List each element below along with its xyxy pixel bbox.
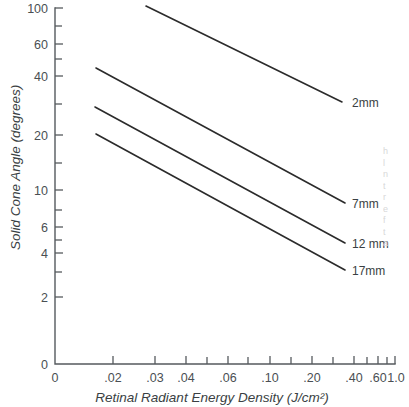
x-axis-major-ticks xyxy=(113,356,395,364)
x-axis-minor-ticks xyxy=(207,357,387,364)
edge-artifact-line: h xyxy=(383,146,409,158)
chart-series-lines xyxy=(95,6,345,270)
edge-artifact-line: t xyxy=(383,181,409,193)
y-tick-label: 100 xyxy=(27,2,48,16)
y-tick-label: 10 xyxy=(34,184,48,198)
edge-artifact-line: f xyxy=(383,215,409,227)
edge-artifact-line: r xyxy=(383,192,409,204)
x-tick-label: .20 xyxy=(303,371,320,385)
x-tick-label: .60 xyxy=(369,371,386,385)
y-tick-label: 40 xyxy=(34,70,48,84)
y-tick-label: 20 xyxy=(34,129,48,143)
series-line-7mm xyxy=(96,68,345,203)
edge-artifact-line: a xyxy=(383,238,409,250)
series-line-17mm xyxy=(96,134,345,270)
series-label-2mm: 2mm xyxy=(352,96,379,110)
page-edge-text-artifact: h l n t r e f t a xyxy=(383,146,409,274)
edge-artifact-line: t xyxy=(383,227,409,239)
series-label-7mm: 7mm xyxy=(352,197,379,211)
y-axis-major-ticks xyxy=(55,8,63,297)
chart-figure: 100 60 40 20 10 6 4 2 0 xyxy=(0,0,409,407)
x-axis-title: Retinal Radiant Energy Density (J/cm²) xyxy=(95,390,328,405)
y-axis-title: Solid Cone Angle (degrees) xyxy=(8,85,23,250)
y-tick-label-origin: 0 xyxy=(41,358,48,372)
x-tick-label-origin: 0 xyxy=(52,371,59,385)
y-tick-label: 4 xyxy=(41,247,48,261)
y-axis-minor-ticks xyxy=(55,26,62,272)
x-tick-label: 1.0 xyxy=(387,371,404,385)
x-tick-label: .06 xyxy=(219,371,236,385)
x-tick-label: .03 xyxy=(146,371,163,385)
series-line-2mm xyxy=(146,6,342,102)
x-tick-label: .02 xyxy=(104,371,121,385)
y-tick-label: 6 xyxy=(41,221,48,235)
chart-axis-lines xyxy=(55,8,395,364)
edge-artifact-line: l xyxy=(383,158,409,170)
edge-artifact-line: n xyxy=(383,169,409,181)
x-tick-label: .04 xyxy=(177,371,194,385)
chart-plot-area: 100 60 40 20 10 6 4 2 0 xyxy=(0,0,409,407)
series-label-17mm: 17mm xyxy=(352,264,385,278)
x-tick-label: .40 xyxy=(345,371,362,385)
series-line-12mm xyxy=(95,107,345,243)
y-tick-label: 60 xyxy=(34,38,48,52)
y-tick-label: 2 xyxy=(41,291,48,305)
x-axis-tick-labels: 0 .02 .03 .04 .06 .10 .20 .40 .60 1.0 xyxy=(52,371,405,385)
x-tick-label: .10 xyxy=(261,371,278,385)
edge-artifact-line: e xyxy=(383,204,409,216)
y-axis-tick-labels: 100 60 40 20 10 6 4 2 0 xyxy=(27,2,48,372)
